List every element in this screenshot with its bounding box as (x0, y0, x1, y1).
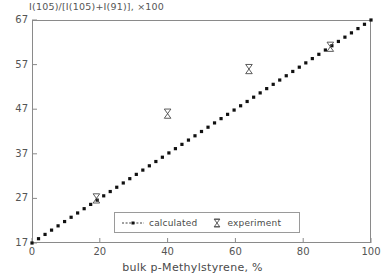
calculated-data-point (350, 31, 353, 34)
calculated-data-point (89, 203, 92, 206)
calculated-data-point (63, 220, 66, 223)
calculated-data-point (102, 194, 105, 197)
legend: calculated experiment (114, 212, 300, 233)
calculated-line-icon (121, 218, 145, 228)
y-tick-label: 67 (3, 14, 28, 25)
calculated-data-point (76, 211, 79, 214)
calculated-data-point (180, 143, 183, 146)
experiment-data-point (246, 64, 253, 73)
calculated-data-point (43, 233, 46, 236)
calculated-data-point (317, 53, 320, 56)
legend-label-experiment: experiment (227, 218, 281, 228)
calculated-data-point (70, 216, 73, 219)
calculated-data-point (122, 181, 125, 184)
data-layer (0, 0, 385, 280)
calculated-data-point (161, 156, 164, 159)
calculated-data-point (213, 121, 216, 124)
calculated-data-point (148, 164, 151, 167)
x-tick-label: 100 (361, 246, 380, 257)
calculated-data-point (174, 147, 177, 150)
calculated-data-point (219, 117, 222, 120)
bowtie-marker-icon (211, 217, 223, 229)
chart-figure: I(105)/[I(105)+I(91)], ×100 172737475767… (0, 0, 385, 280)
calculated-data-point (206, 126, 209, 129)
calculated-data-point (252, 96, 255, 99)
calculated-data-point (265, 87, 268, 90)
calculated-data-point (337, 40, 340, 43)
calculated-data-point (285, 74, 288, 77)
calculated-data-point (272, 83, 275, 86)
x-tick-label: 0 (29, 246, 35, 257)
calculated-data-point (246, 100, 249, 103)
calculated-data-point (291, 70, 294, 73)
calculated-data-point (200, 130, 203, 133)
calculated-data-point (187, 138, 190, 141)
calculated-data-point (109, 190, 112, 193)
calculated-data-point (37, 237, 40, 240)
calculated-data-point (304, 61, 307, 64)
y-tick-label: 37 (3, 148, 28, 159)
y-tick-label: 57 (3, 59, 28, 70)
calculated-data-point (30, 241, 33, 244)
calculated-data-point (50, 229, 53, 232)
calculated-data-point (278, 78, 281, 81)
x-tick-label: 80 (297, 246, 310, 257)
calculated-data-point (298, 66, 301, 69)
calculated-data-point (83, 207, 86, 210)
y-tick-label: 27 (3, 192, 28, 203)
calculated-data-point (233, 108, 236, 111)
y-tick-label: 47 (3, 103, 28, 114)
x-tick-label: 20 (93, 246, 106, 257)
legend-item-calculated: calculated (121, 218, 197, 228)
calculated-data-point (239, 104, 242, 107)
x-tick-label: 60 (229, 246, 242, 257)
calculated-data-point (167, 151, 170, 154)
calculated-data-point (356, 27, 359, 30)
y-tick-label: 17 (3, 237, 28, 248)
calculated-data-point (128, 177, 131, 180)
calculated-data-point (226, 113, 229, 116)
x-axis-title: bulk p-Methylstyrene, % (0, 261, 385, 274)
calculated-data-point (363, 23, 366, 26)
calculated-data-point (141, 169, 144, 172)
calculated-data-point (343, 36, 346, 39)
calculated-data-point (115, 186, 118, 189)
legend-label-calculated: calculated (149, 218, 197, 228)
calculated-data-point (56, 224, 59, 227)
calculated-data-point (311, 57, 314, 60)
x-tick-label: 40 (161, 246, 174, 257)
calculated-data-point (135, 173, 138, 176)
calculated-data-point (259, 91, 262, 94)
calculated-data-point (324, 48, 327, 51)
legend-item-experiment: experiment (211, 217, 281, 229)
calculated-data-point (154, 160, 157, 163)
calculated-data-point (193, 134, 196, 137)
experiment-data-point (164, 109, 171, 118)
calculated-data-point (369, 18, 372, 21)
